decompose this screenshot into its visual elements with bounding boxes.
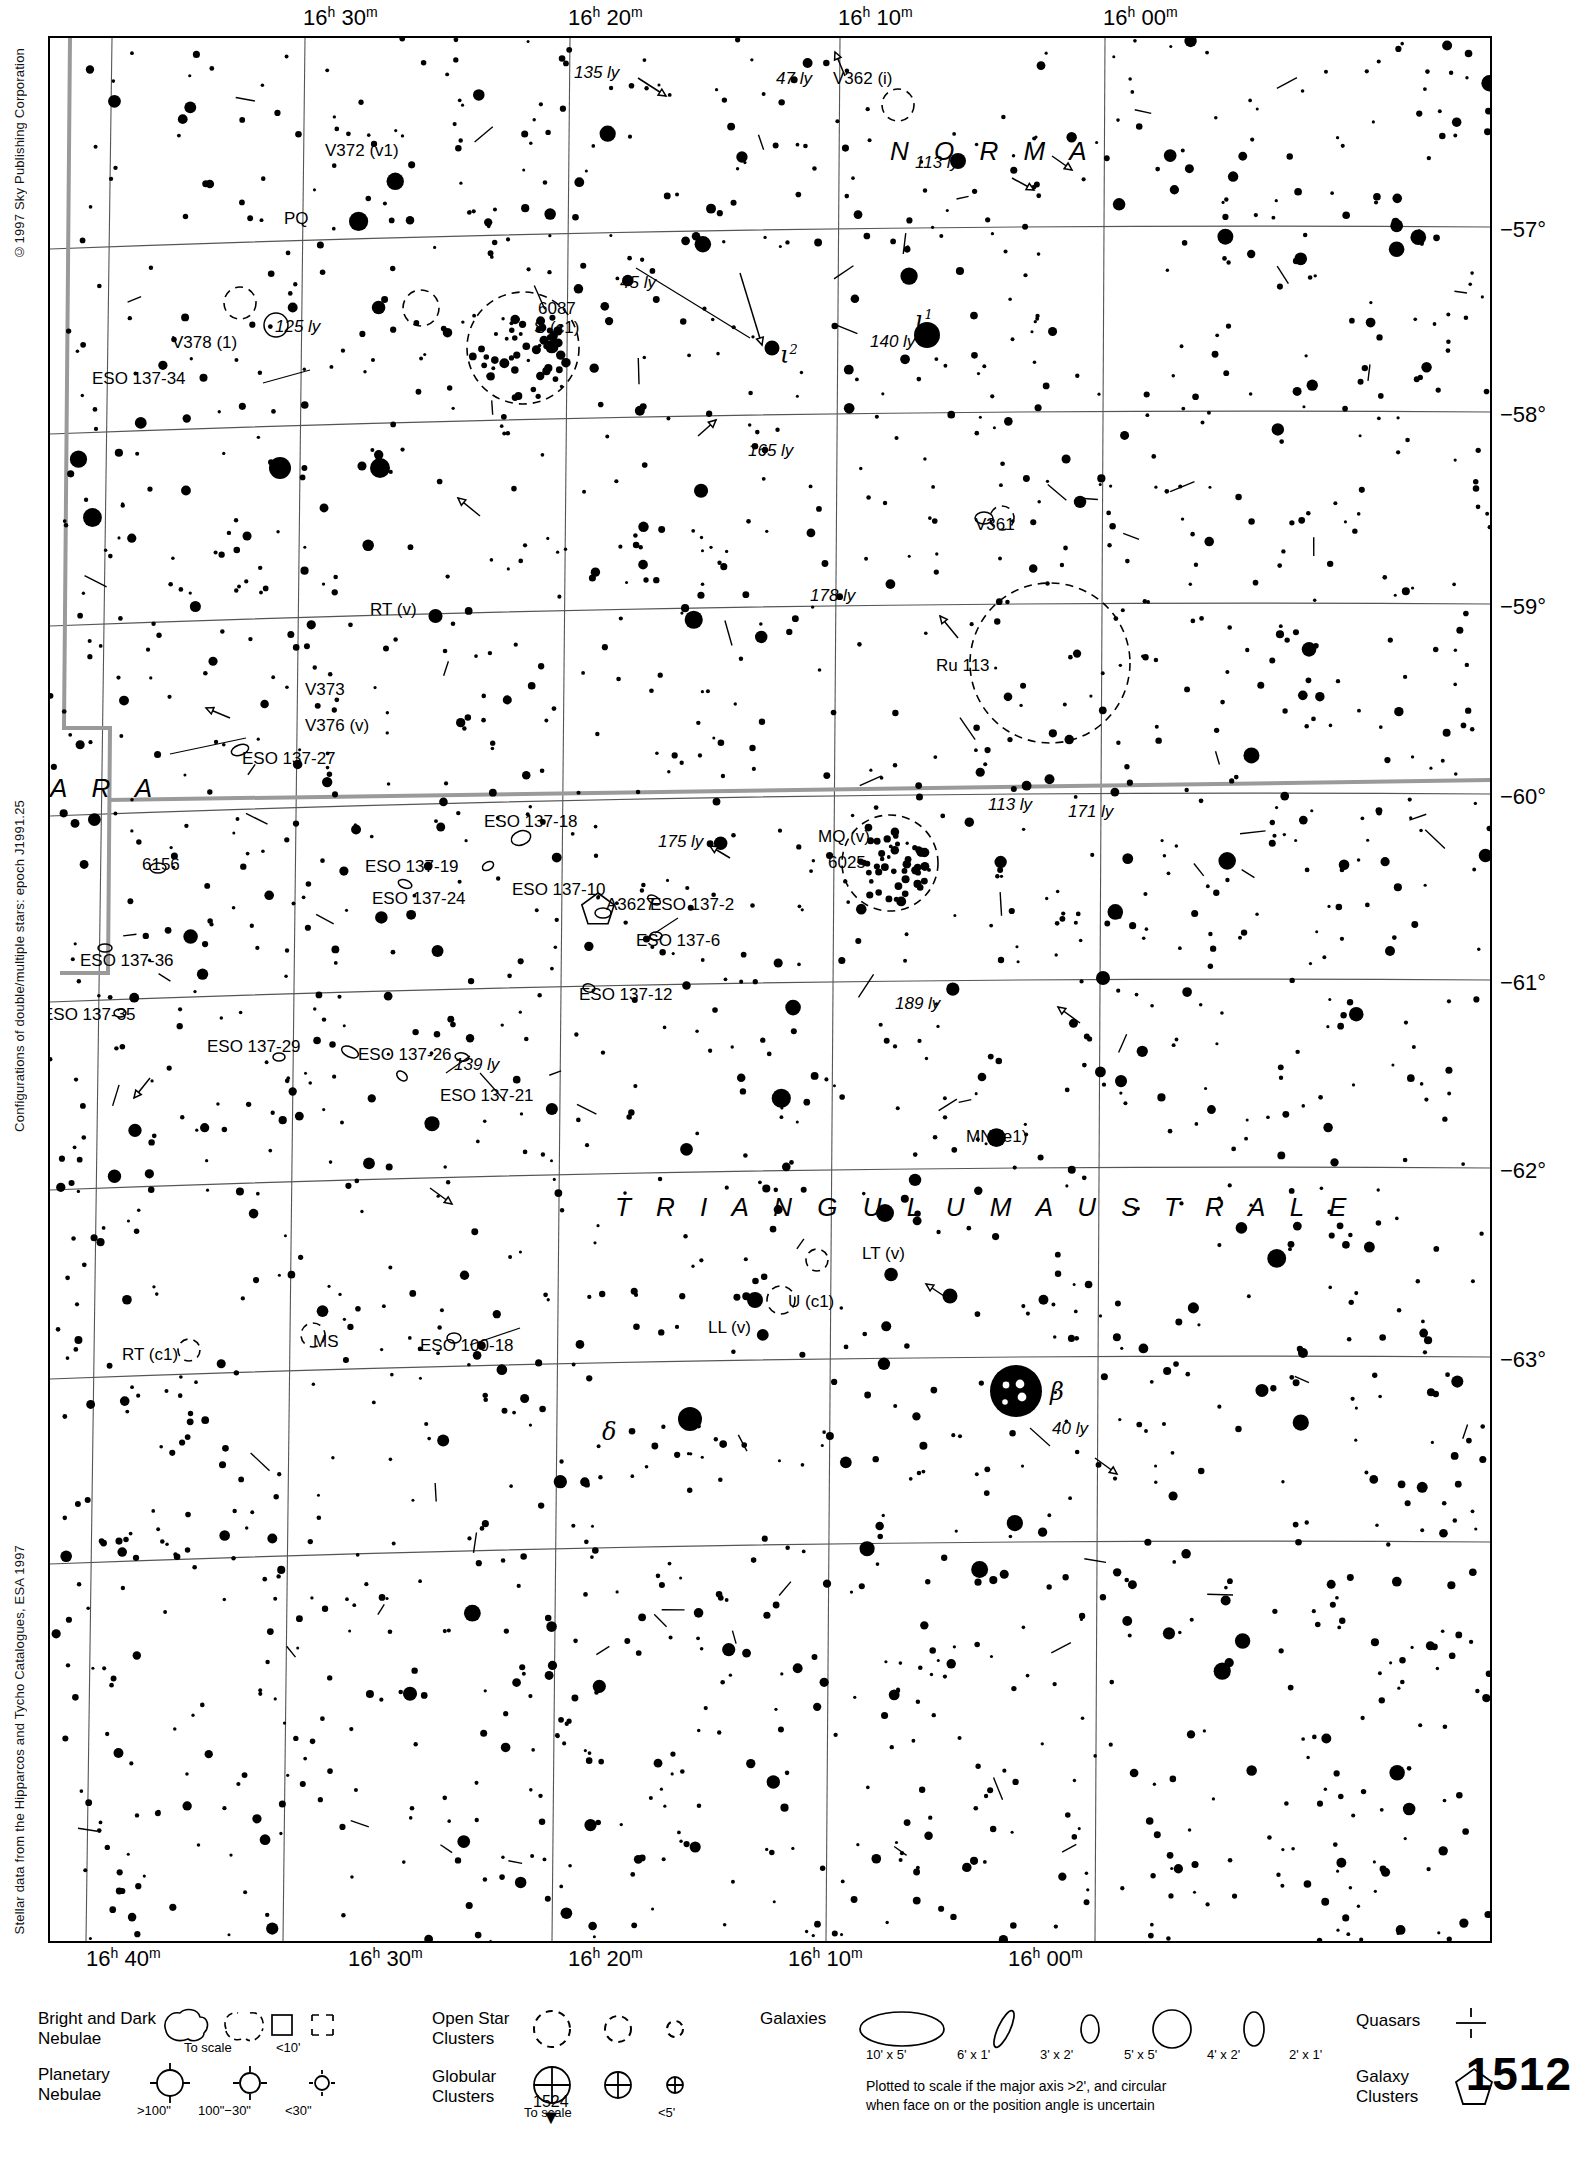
object-label-11: 140 ly: [870, 333, 915, 350]
object-label-46: RT (c1): [122, 1346, 178, 1363]
down-arrow-icon: ▼: [533, 2109, 569, 2125]
greek-star-label-0: ι1: [915, 306, 933, 334]
object-label-38: ESO 137-29: [207, 1038, 301, 1055]
object-label-40: 139 ly: [454, 1056, 499, 1073]
ra-tick-bottom-3: 16h 10m: [788, 1945, 863, 1972]
legend-caption-gc-lt5: <5': [658, 2105, 675, 2120]
object-label-42: MN (e1): [966, 1128, 1027, 1145]
open-cluster-icons: [520, 2007, 720, 2051]
object-label-39: ESO 137-26: [358, 1046, 452, 1063]
nebula-small-icon: [268, 2007, 348, 2043]
object-label-36: 189 ly: [895, 995, 940, 1012]
object-label-10: V378 (1): [172, 334, 237, 351]
object-label-37: ESO 137-35: [48, 1006, 136, 1023]
object-label-17: Ru 113: [936, 657, 990, 674]
object-label-9: 125 ly: [275, 318, 320, 335]
ra-tick-bottom-2: 16h 20m: [568, 1945, 643, 1972]
object-label-5: PQ: [284, 210, 309, 227]
copyright-notice: ©1997 Sky Publishing Corporation: [12, 48, 27, 259]
object-label-48: ESO 100-18: [420, 1337, 514, 1354]
dec-parallel-5: [50, 1167, 1490, 1190]
legend-caption-galaxy-10x5: 10' x 5': [866, 2047, 906, 2062]
ra-tick-top-1: 16h 20m: [568, 4, 643, 31]
object-label-31: A3627: [606, 896, 655, 913]
dec-tick-4: −61°: [1500, 970, 1546, 996]
ra-meridian-3: [1095, 38, 1105, 1941]
object-label-34: ESO 137-36: [80, 952, 174, 969]
constellation-label-2: T R I A N G U L U M A U S T R A L E: [615, 1192, 1355, 1223]
object-label-26: 6025: [828, 854, 866, 871]
planetary-nebula-icons: [140, 2061, 370, 2103]
legend-bright-dark-nebulae-title: Bright and Dark Nebulae: [38, 2009, 158, 2048]
object-label-19: V376 (v): [305, 717, 369, 734]
object-label-41: ESO 137-21: [440, 1087, 534, 1104]
beta-trianguli-australis-symbol: [990, 1365, 1042, 1417]
object-label-23: 171 ly: [1068, 803, 1113, 820]
greek-star-label-3: β: [1050, 1378, 1064, 1406]
dec-tick-5: −62°: [1500, 1158, 1546, 1184]
star-chart-page: ©1997 Sky Publishing Corporation Configu…: [0, 0, 1596, 2180]
next-chart-pointer[interactable]: 1524 ▼: [533, 2093, 569, 2125]
object-label-32: ESO 137-2: [650, 896, 734, 913]
legend-caption-galaxy-2x1: 2' x 1': [1289, 2047, 1322, 2062]
legend-caption-galaxy-4x2: 4' x 2': [1207, 2047, 1240, 2062]
star-dots: [50, 38, 1490, 1941]
object-label-20: ESO 137-27: [242, 750, 336, 767]
legend-caption-galaxy-3x2: 3' x 2': [1040, 2047, 1073, 2062]
legend-caption-galaxy-5x5: 5' x 5': [1124, 2047, 1157, 2062]
object-label-47: MS: [313, 1333, 339, 1350]
stellar-data-source-note: Stellar data from the Hipparcos and Tych…: [12, 1545, 27, 1934]
object-label-30: ESO 137-24: [372, 890, 466, 907]
sky-map[interactable]: 135 ly47 lyV362 (i)V372 (v1)113 lyPQ45 l…: [48, 36, 1492, 1943]
object-label-3: V372 (v1): [325, 142, 399, 159]
object-label-21: ESO 137-18: [484, 813, 578, 830]
object-label-16: RT (v): [370, 601, 417, 618]
constellation-boundary: [60, 38, 1490, 973]
dec-tick-6: −63°: [1500, 1347, 1546, 1373]
legend-caption-pn-gt100: >100": [137, 2103, 171, 2118]
chart-legend: Bright and Dark Nebulae To scale <10' Pl…: [0, 1985, 1596, 2180]
ra-meridian-4: [86, 38, 112, 1941]
dec-parallel-7: [50, 1541, 1490, 1564]
galaxy-icons: [856, 2005, 1276, 2051]
legend-caption-nebula-lt10: <10': [276, 2040, 301, 2055]
object-label-43: LT (v): [862, 1245, 905, 1262]
dec-tick-0: −57°: [1500, 217, 1546, 243]
dec-parallel-4: [50, 979, 1490, 1002]
object-label-22: 113 ly: [988, 796, 1032, 813]
chart-number: 1512: [1466, 2047, 1572, 2101]
dec-parallel-0: [50, 226, 1490, 249]
object-label-44: U (c1): [788, 1293, 834, 1310]
legend-quasars-title: Quasars: [1356, 2011, 1420, 2031]
legend-caption-pn-lt30: <30": [285, 2103, 312, 2118]
object-label-33: ESO 137-6: [636, 932, 720, 949]
object-label-24: 175 ly: [658, 833, 703, 850]
legend-caption-galaxy-6x1: 6' x 1': [957, 2047, 990, 2062]
object-label-45: LL (v): [708, 1319, 751, 1336]
object-label-18: V373: [305, 681, 345, 698]
dec-parallel-2: [50, 603, 1490, 626]
dec-tick-3: −60°: [1500, 784, 1546, 810]
legend-galaxy-clusters-title: Galaxy Clusters: [1356, 2067, 1418, 2106]
object-label-29: ESO 137-10: [512, 881, 606, 898]
dec-parallel-6: [50, 1356, 1490, 1379]
quasar-icon: [1452, 2005, 1496, 2039]
legend-caption-pn-100-30: 100"−30": [198, 2103, 251, 2118]
legend-galaxies-title: Galaxies: [760, 2009, 826, 2029]
greek-star-label-2: δ: [602, 1418, 616, 1446]
ra-tick-bottom-1: 16h 30m: [348, 1945, 423, 1972]
object-label-7: 6087: [538, 300, 576, 317]
legend-galaxies-note: Plotted to scale if the major axis >2', …: [866, 2077, 1166, 2115]
object-label-28: ESO 137-19: [365, 858, 459, 875]
greek-star-label-1: ι2: [780, 341, 798, 369]
dec-tick-2: −59°: [1500, 594, 1546, 620]
object-label-27: 6156: [142, 856, 180, 873]
label-leader-lines: [170, 268, 1050, 1446]
legend-caption-to-scale-nebula: To scale: [184, 2040, 232, 2055]
object-label-0: 135 ly: [574, 64, 619, 81]
ra-tick-top-2: 16h 10m: [838, 4, 913, 31]
object-label-2: V362 (i): [833, 70, 893, 87]
ra-tick-bottom-4: 16h 00m: [1008, 1945, 1083, 1972]
object-label-35: ESO 137-12: [579, 986, 673, 1003]
constellation-label-1: A R A: [50, 773, 161, 804]
